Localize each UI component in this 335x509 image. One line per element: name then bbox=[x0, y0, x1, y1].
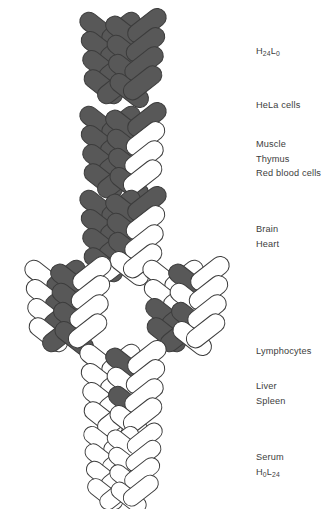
molecule-diagram bbox=[20, 262, 116, 350]
label-line: Thymus bbox=[256, 152, 321, 167]
label-line: Serum bbox=[256, 450, 284, 465]
molecule-brain-left bbox=[20, 262, 116, 350]
label-hela: HeLa cells bbox=[256, 98, 300, 113]
label-line: Liver bbox=[256, 379, 286, 394]
label-line: H0L24 bbox=[256, 465, 284, 480]
molecule-liver-spleen bbox=[75, 346, 171, 434]
label-line: Muscle bbox=[256, 137, 321, 152]
label-line: Lymphocytes bbox=[256, 344, 311, 359]
molecule-diagram bbox=[138, 262, 234, 350]
label-brain-heart: BrainHeart bbox=[256, 222, 279, 251]
molecule-diagram bbox=[75, 428, 171, 508]
label-muscle-thymus-rbc: MuscleThymusRed blood cells bbox=[256, 137, 321, 181]
label-line: H24L0 bbox=[256, 44, 280, 59]
molecule-diagram bbox=[75, 346, 171, 434]
label-liver-spleen: LiverSpleen bbox=[256, 379, 286, 408]
label-line: HeLa cells bbox=[256, 98, 300, 113]
label-line: Brain bbox=[256, 222, 279, 237]
molecule-diagram bbox=[75, 14, 171, 102]
molecule-h24l0 bbox=[75, 14, 171, 102]
molecule-hela bbox=[75, 108, 171, 196]
label-h24l0: H24L0 bbox=[256, 44, 280, 59]
label-lymphocytes: Lymphocytes bbox=[256, 344, 311, 359]
label-line: Heart bbox=[256, 237, 279, 252]
label-line: Red blood cells bbox=[256, 166, 321, 181]
label-serum: SerumH0L24 bbox=[256, 450, 284, 479]
ferritin-composition-figure: H24L0HeLa cellsMuscleThymusRed blood cel… bbox=[0, 0, 335, 509]
label-line: Spleen bbox=[256, 394, 286, 409]
molecule-diagram bbox=[75, 108, 171, 196]
molecule-heart-right bbox=[138, 262, 234, 350]
molecule-h0l24 bbox=[75, 428, 171, 508]
